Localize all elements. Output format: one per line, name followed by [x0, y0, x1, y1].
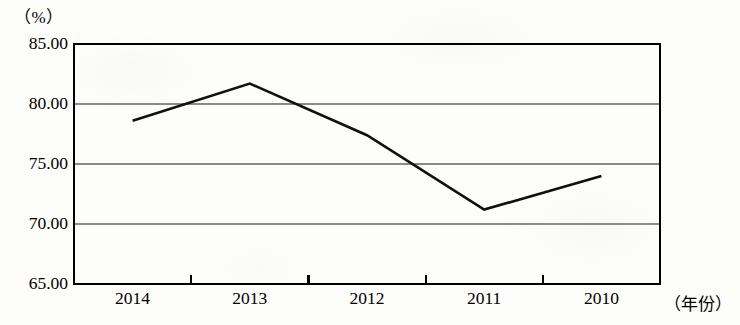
x-tick-label: 2010 — [556, 290, 646, 308]
line-chart: （%） 65.0070.0075.0080.0085.00 2014201320… — [0, 0, 740, 325]
x-tick-label: 2013 — [205, 290, 295, 308]
y-axis-tick-labels: 65.0070.0075.0080.0085.00 — [0, 0, 68, 325]
gridlines — [74, 104, 660, 224]
y-tick-label: 85.00 — [2, 35, 68, 53]
x-tick-label: 2014 — [88, 290, 178, 308]
y-tick-label: 70.00 — [2, 215, 68, 233]
y-tick-label: 80.00 — [2, 95, 68, 113]
x-axis-name-label: （年份） — [664, 290, 732, 315]
x-tick-label: 2011 — [439, 290, 529, 308]
plot-area — [0, 0, 740, 325]
y-tick-label: 65.00 — [2, 275, 68, 293]
y-tick-label: 75.00 — [2, 155, 68, 173]
x-axis-ticks — [191, 275, 543, 284]
data-line — [133, 84, 602, 210]
x-tick-label: 2012 — [322, 290, 412, 308]
